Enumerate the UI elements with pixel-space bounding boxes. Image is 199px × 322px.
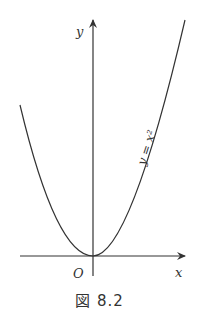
origin-label: O xyxy=(73,266,84,281)
y-axis-label: y xyxy=(75,24,84,39)
figure-caption: 図 8.2 xyxy=(0,289,199,310)
parabola-curve xyxy=(20,20,185,256)
x-axis-label: x xyxy=(175,265,183,280)
curve-label: y = x² xyxy=(134,128,159,168)
parabola-diagram: y x O y = x² xyxy=(0,0,199,322)
